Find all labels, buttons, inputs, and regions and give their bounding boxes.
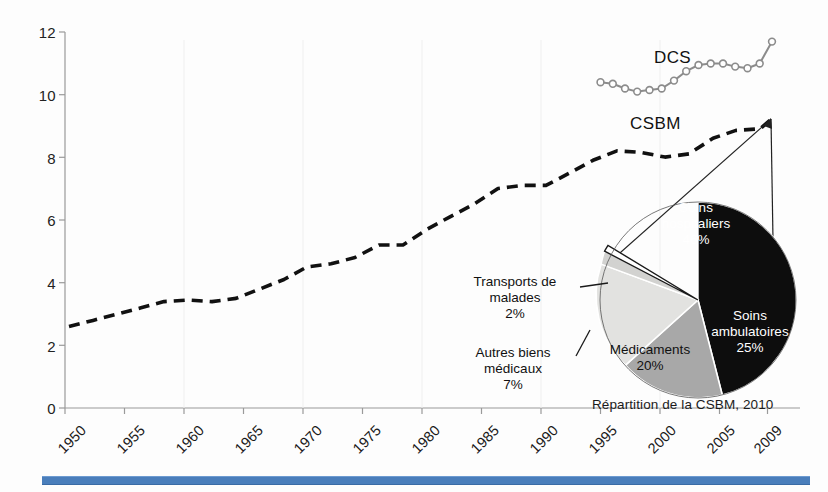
pie-label-value: 2% [448, 306, 582, 322]
pie-label-autres-biens-medicaux: Autres biens médicaux 7% [448, 345, 578, 393]
pie-label-line2: ambulatoires [680, 324, 820, 340]
pie-label-line1: Soins [616, 200, 776, 216]
pie-label-value: 7% [448, 377, 578, 393]
pie-label-line1: Médicaments [595, 342, 705, 358]
series-label-dcs: DCS [654, 48, 691, 68]
pie-label-soins-hospitaliers: Soins hospitaliers 46% [616, 200, 776, 248]
pie-label-line1: Transports de [448, 274, 582, 290]
pie-label-line2: médicaux [448, 361, 578, 377]
pie-caption: Répartition de la CSBM, 2010 [592, 397, 773, 412]
pie-label-transports-de-malades: Transports de malades 2% [448, 274, 582, 322]
pie-label-medicaments: Médicaments 20% [595, 342, 705, 374]
pie-label-value: 46% [616, 232, 776, 248]
series-label-csbm: CSBM [630, 114, 681, 134]
pie-label-line1: Soins [680, 308, 820, 324]
pie-label-line2: hospitaliers [616, 216, 776, 232]
pie-label-line2: malades [448, 290, 582, 306]
pie-label-line1: Autres biens [448, 345, 578, 361]
background-guides [184, 40, 660, 408]
chart-figure: 12 10 8 6 4 2 0 1950 1955 1960 1965 1970… [0, 0, 828, 492]
bottom-accent-rule [42, 476, 810, 485]
pie-label-value: 20% [595, 358, 705, 374]
y-axis-ticks [59, 32, 65, 408]
